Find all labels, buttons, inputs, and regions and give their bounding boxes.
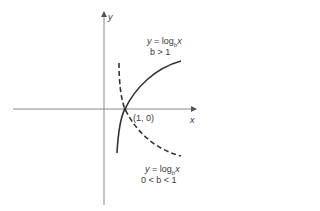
x-axis-label: x: [190, 115, 195, 125]
point-label: (1, 0): [133, 113, 154, 123]
intersection-point: [124, 108, 127, 111]
curve-b-greater-than-1: [117, 61, 181, 153]
y-axis-label: y: [108, 12, 113, 22]
condition-label-b-greater-1: b > 1: [150, 47, 170, 57]
condition-label-b-between: 0 < b < 1: [141, 175, 177, 185]
